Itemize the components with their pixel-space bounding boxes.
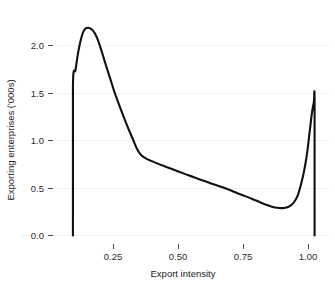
x-axis-ticks: [113, 244, 308, 249]
x-tick-label-1.00: 1.00: [299, 251, 318, 262]
y-axis-ticks: [48, 46, 53, 236]
chart-figure: 2.0 1.5 1.0 0.5 0.0 0.25 0.50 0.75 1.00 …: [0, 0, 335, 289]
x-axis-tick-labels: 0.25 0.50 0.75 1.00: [104, 251, 318, 262]
y-tick-label-0.0: 0.0: [31, 230, 44, 241]
y-tick-label-1.0: 1.0: [31, 135, 44, 146]
y-tick-label-1.5: 1.5: [31, 88, 44, 99]
x-tick-label-0.25: 0.25: [104, 251, 123, 262]
y-axis-tick-labels: 2.0 1.5 1.0 0.5 0.0: [31, 40, 44, 241]
y-tick-label-0.5: 0.5: [31, 183, 44, 194]
x-tick-label-0.50: 0.50: [169, 251, 188, 262]
density-plot: 2.0 1.5 1.0 0.5 0.0 0.25 0.50 0.75 1.00 …: [0, 0, 335, 289]
density-curve-line: [73, 28, 315, 236]
y-tick-label-2.0: 2.0: [31, 40, 44, 51]
figure-surface: 2.0 1.5 1.0 0.5 0.0 0.25 0.50 0.75 1.00 …: [0, 0, 335, 289]
x-axis-title: Export intensity: [151, 268, 216, 279]
y-axis-title: Exporting enterprises ('000s): [5, 79, 16, 200]
x-tick-label-0.75: 0.75: [234, 251, 253, 262]
